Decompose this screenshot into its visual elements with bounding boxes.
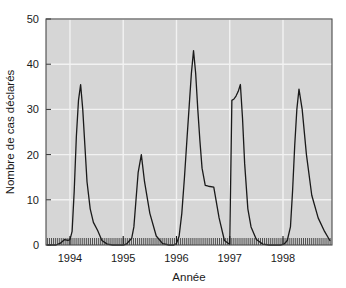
x-tick-label: 1998 [271,252,295,264]
y-tick-label: 30 [27,103,39,115]
x-tick-label: 1995 [111,252,135,264]
x-axis-title: Année [172,271,205,283]
y-axis-title: Nombre de cas déclarés [4,69,16,194]
x-tick-label: 1994 [58,252,82,264]
y-tick-label: 40 [27,58,39,70]
chart-container: 01020304050 19941995199619971998 Nombre … [0,0,346,288]
plot-panel [46,19,332,245]
y-tick-label: 10 [27,194,39,206]
x-tick-label: 1997 [218,252,242,264]
y-tick-label: 20 [27,149,39,161]
y-tick-label: 50 [27,13,39,25]
y-tick-label: 0 [33,239,39,251]
line-chart: 01020304050 19941995199619971998 Nombre … [0,0,346,288]
x-tick-label: 1996 [164,252,188,264]
